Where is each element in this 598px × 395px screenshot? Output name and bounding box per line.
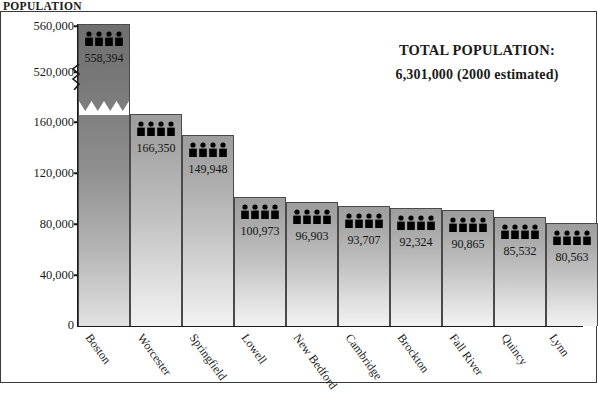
- total-population-label: TOTAL POPULATION:: [372, 38, 582, 63]
- y-axis-title: POPULATION: [3, 0, 82, 12]
- bar-worcester[interactable]: 166,350: [130, 114, 182, 326]
- total-population-annotation: TOTAL POPULATION: 6,301,000 (2000 estima…: [372, 38, 582, 88]
- y-tick-560000: 560,000: [4, 19, 74, 34]
- x-label-lowell: Lowell: [238, 331, 270, 367]
- four-people-icon: [292, 209, 332, 224]
- four-people-icon: [396, 215, 436, 230]
- x-label-cambridge: Cambridge: [342, 331, 385, 383]
- bar-value-lowell: 100,973: [241, 224, 280, 239]
- x-label-boston: Boston: [82, 331, 114, 367]
- bar-lowell[interactable]: 100,973: [234, 197, 286, 326]
- four-people-icon: [136, 121, 176, 136]
- bar-value-lynn: 80,563: [556, 250, 589, 265]
- bar-new-bedford[interactable]: 96,903: [286, 202, 338, 326]
- bar-value-brockton: 92,324: [400, 235, 433, 250]
- bar-value-cambridge: 93,707: [348, 233, 381, 248]
- four-people-icon: [188, 142, 228, 157]
- four-people-icon: [448, 217, 488, 232]
- x-label-springfield: Springfield: [186, 331, 230, 384]
- bar-cambridge[interactable]: 93,707: [338, 206, 390, 326]
- bar-value-quincy: 85,532: [504, 244, 537, 259]
- bar-springfield[interactable]: 149,948: [182, 135, 234, 326]
- axis-break-icon: [70, 64, 82, 90]
- bar-lynn[interactable]: 80,563: [546, 223, 598, 326]
- population-bar-chart: POPULATION 560,000 520,000 160,000 120,0…: [0, 0, 598, 395]
- x-label-brockton: Brockton: [394, 331, 432, 376]
- total-population-value: 6,301,000 (2000 estimated): [372, 63, 582, 88]
- bar-value-boston: 558,394: [85, 51, 124, 66]
- bar-boston[interactable]: 558,394: [78, 24, 130, 326]
- x-label-new-bedford: New Bedford: [290, 331, 340, 392]
- four-people-icon: [552, 230, 592, 245]
- bar-value-springfield: 149,948: [189, 162, 228, 177]
- bar-value-worcester: 166,350: [137, 141, 176, 156]
- bar-fall-river[interactable]: 90,865: [442, 210, 494, 326]
- four-people-icon: [500, 224, 540, 239]
- y-tick-160000: 160,000: [4, 115, 74, 130]
- x-label-lynn: Lynn: [546, 331, 573, 360]
- x-label-quincy: Quincy: [498, 331, 531, 368]
- four-people-icon: [344, 213, 384, 228]
- four-people-icon: [240, 204, 280, 219]
- y-tick-0: 0: [4, 318, 74, 333]
- y-tick-80000: 80,000: [4, 217, 74, 232]
- x-label-fall-river: Fall River: [446, 331, 487, 379]
- y-tick-520000: 520,000: [4, 65, 74, 80]
- x-label-worcester: Worcester: [134, 331, 175, 379]
- bar-break-zigzag: [79, 97, 129, 115]
- y-tick-40000: 40,000: [4, 268, 74, 283]
- four-people-icon: [84, 31, 124, 46]
- bar-value-new-bedford: 96,903: [296, 229, 329, 244]
- bar-quincy[interactable]: 85,532: [494, 217, 546, 326]
- y-tick-120000: 120,000: [4, 166, 74, 181]
- bar-brockton[interactable]: 92,324: [390, 208, 442, 326]
- bar-value-fall-river: 90,865: [452, 237, 485, 252]
